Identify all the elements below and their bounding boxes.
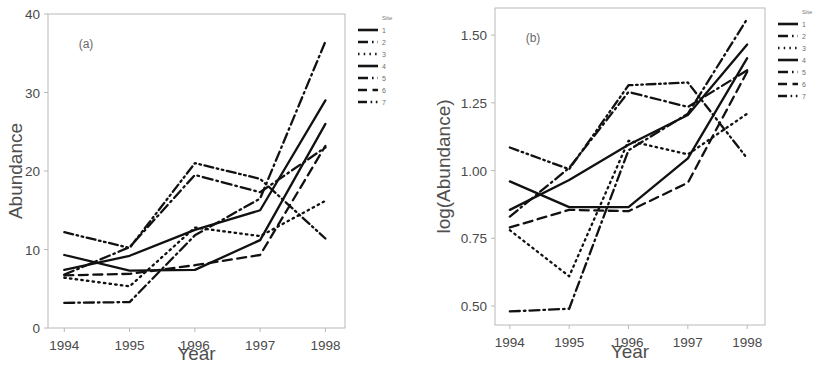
plot-a: 01020304019941995199619971998YearAbundan… — [5, 7, 393, 364]
legend-label-2: 2 — [382, 39, 386, 46]
x-tick-label: 1995 — [554, 335, 584, 350]
series-line-1[interactable] — [510, 45, 747, 210]
x-tick-label: 1994 — [495, 335, 526, 350]
x-tick-label: 1994 — [49, 338, 80, 353]
series-line-2[interactable] — [510, 19, 747, 312]
legend-label-7: 7 — [382, 99, 386, 106]
series-line-4[interactable] — [64, 124, 325, 271]
x-tick-label: 1997 — [673, 335, 703, 350]
y-tick-label: 1.00 — [461, 164, 487, 179]
y-tick-label: 40 — [25, 7, 40, 22]
legend-label-3: 3 — [382, 51, 386, 58]
series-line-5[interactable] — [510, 70, 747, 216]
series-line-3[interactable] — [64, 201, 325, 287]
legend-label-5: 5 — [382, 75, 386, 82]
series-line-7[interactable] — [510, 83, 747, 170]
legend-label-2: 2 — [802, 33, 806, 40]
legend-title: Site — [382, 15, 393, 21]
y-tick-label: 0.75 — [461, 231, 487, 246]
legend-label-1: 1 — [802, 21, 806, 28]
x-axis-title: Year — [611, 341, 650, 362]
legend-label-3: 3 — [802, 45, 806, 52]
legend-label-1: 1 — [382, 27, 386, 34]
legend-label-7: 7 — [802, 93, 806, 100]
y-tick-label: 1.25 — [461, 96, 487, 111]
plot-b: 0.500.751.001.251.5019941995199619971998… — [433, 8, 813, 362]
chart-svg-b: 0.500.751.001.251.5019941995199619971998… — [420, 0, 829, 386]
figure-container: 01020304019941995199619971998YearAbundan… — [0, 0, 829, 386]
x-tick-label: 1997 — [245, 338, 275, 353]
chart-svg-a: 01020304019941995199619971998YearAbundan… — [0, 0, 420, 386]
legend-label-6: 6 — [382, 87, 386, 94]
series-line-4[interactable] — [510, 58, 747, 207]
panel-label: (b) — [526, 31, 541, 45]
x-axis-title: Year — [177, 343, 216, 364]
legend-label-4: 4 — [802, 57, 806, 64]
y-axis-title: log(Abundance) — [433, 99, 454, 233]
legend-label-6: 6 — [802, 81, 806, 88]
legend-label-4: 4 — [382, 63, 386, 70]
series-line-1[interactable] — [64, 100, 325, 270]
y-tick-label: 20 — [25, 164, 40, 179]
y-axis-title: Abundance — [5, 123, 26, 219]
chart-panel-a: 01020304019941995199619971998YearAbundan… — [0, 0, 420, 386]
y-tick-label: 10 — [25, 243, 40, 258]
x-tick-label: 1998 — [732, 335, 762, 350]
legend-label-5: 5 — [802, 69, 806, 76]
y-tick-label: 30 — [25, 86, 40, 101]
panel-label: (a) — [79, 37, 94, 51]
y-tick-label: 0.50 — [461, 299, 487, 314]
x-tick-label: 1998 — [310, 338, 340, 353]
y-tick-label: 1.50 — [461, 28, 487, 43]
chart-panel-b: 0.500.751.001.251.5019941995199619971998… — [420, 0, 829, 386]
x-tick-label: 1995 — [115, 338, 145, 353]
y-tick-label: 0 — [32, 321, 40, 336]
legend-title: Site — [802, 9, 813, 15]
